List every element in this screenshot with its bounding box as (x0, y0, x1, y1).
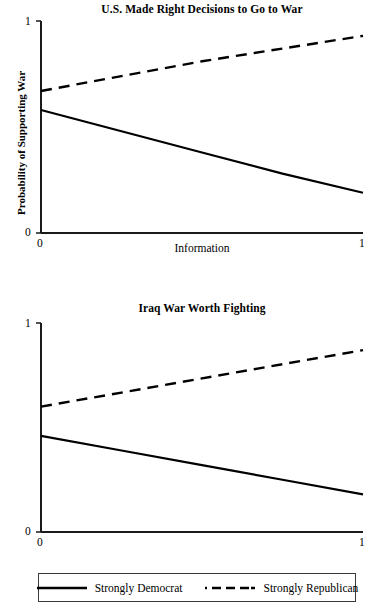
legend-line-sample-dashed (204, 583, 256, 593)
x-axis-label-decisions: Information (40, 242, 364, 254)
plot-area-worth-fighting (0, 290, 372, 560)
legend-label-strongly-democrat: Strongly Democrat (95, 582, 183, 594)
legend-line-sample-solid (36, 583, 88, 593)
series-line-strongly-republican (41, 36, 363, 91)
chart-panel-decisions: U.S. Made Right Decisions to Go to War P… (0, 0, 372, 290)
series-line-strongly-republican (41, 350, 363, 406)
chart-panel-worth-fighting: Iraq War Worth Fighting Probability of S… (0, 290, 372, 560)
legend-item-strongly-democrat: Strongly Democrat (36, 582, 183, 594)
legend-item-strongly-republican: Strongly Republican (204, 582, 358, 594)
series-line-strongly-democrat (41, 436, 363, 495)
legend: Strongly Democrat Strongly Republican (38, 573, 356, 602)
series-line-strongly-democrat (41, 110, 363, 193)
legend-label-strongly-republican: Strongly Republican (263, 582, 358, 594)
